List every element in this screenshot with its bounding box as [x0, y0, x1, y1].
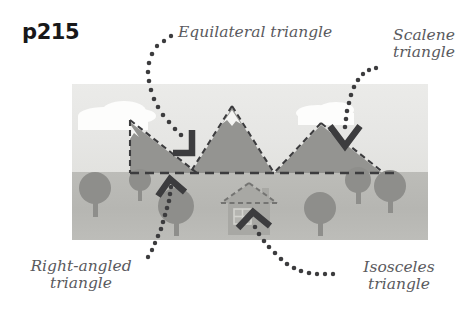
- callout-label-equilateral: Equilateral triangle: [178, 24, 332, 41]
- callout-label-scalene: Scalene triangle: [378, 27, 470, 62]
- callout-label-isosceles: Isosceles triangle: [338, 259, 460, 294]
- callout-label-right-angled: Right-angled triangle: [8, 258, 154, 293]
- illustration-page: p215: [0, 0, 474, 323]
